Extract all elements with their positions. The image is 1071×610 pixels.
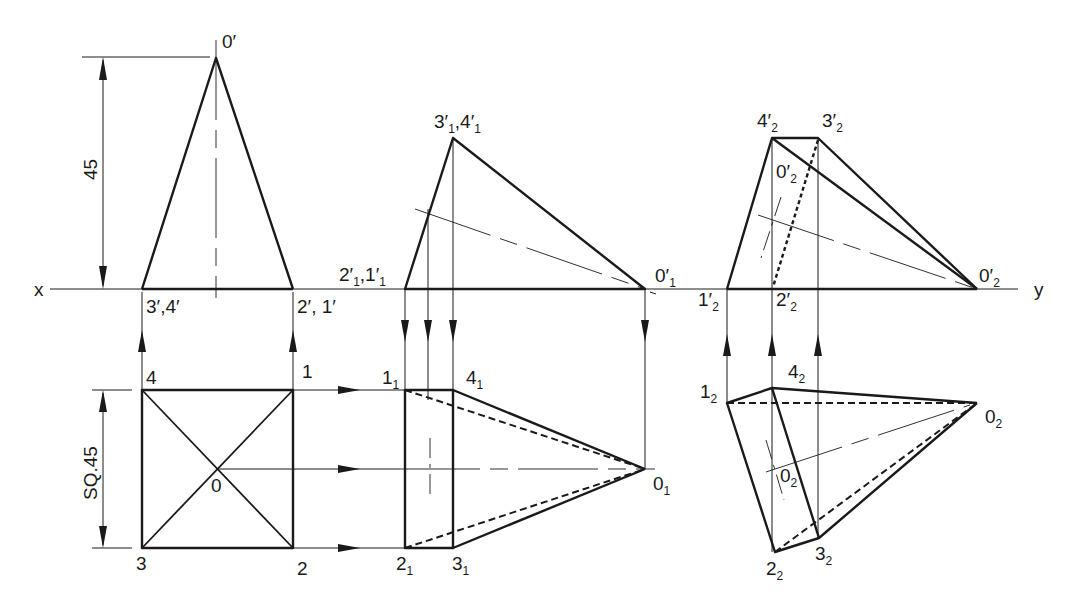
view3-center-label: 0′2	[776, 161, 797, 186]
view3-top-apex-label: 02	[985, 406, 1003, 431]
view1-front-elevation: 0′ 3′,4′ 2′, 1′	[142, 31, 336, 317]
view3-front-elevation: 4′2 3′2 0′2 1′2 2′2 0′2	[698, 110, 1000, 314]
base-left-label: 3′,4′	[146, 296, 180, 317]
height-dimension: 45	[80, 57, 210, 289]
corner-2-label: 2	[297, 558, 308, 579]
view3-p1-label: 1′2	[698, 289, 719, 314]
apex-label: 0′	[222, 31, 237, 52]
view2-p4-label: 41	[466, 367, 484, 392]
view2-front-elevation: 2′1,1′1 3′1,4′1 0′1	[339, 111, 676, 294]
corner-1-label: 1	[302, 361, 313, 382]
view3-projectors	[723, 138, 822, 552]
view3-top-center-label: 02	[780, 465, 798, 490]
transfer-lines-horizontal	[216, 386, 655, 552]
view3-p4-label: 4′2	[757, 110, 778, 135]
y-label: y	[1034, 279, 1044, 300]
view1-top-plan: 4 1 3 2 0	[136, 361, 313, 579]
view3-top-p1-label: 12	[700, 381, 718, 406]
view2-apex-top-label: 01	[653, 473, 671, 498]
view2-p3-label: 31	[452, 553, 470, 578]
view3-top-p2-label: 22	[766, 558, 784, 583]
view3-apex-label: 0′2	[979, 265, 1000, 290]
projection-drawing: x y 0′ 3′,4′ 2′, 1′ 45 4 1 3 2 0	[0, 0, 1071, 610]
x-label: x	[34, 279, 44, 300]
view2-top-label: 3′1,4′1	[434, 111, 481, 136]
corner-4-label: 4	[146, 367, 157, 388]
corner-3-label: 3	[136, 553, 147, 574]
view2-p2-label: 21	[396, 553, 414, 578]
base-right-label: 2′, 1′	[297, 296, 336, 317]
base-dimension: SQ.45	[80, 390, 132, 548]
view3-p3-label: 3′2	[822, 110, 843, 135]
view2-top-plan: 11 41 21 31 01	[382, 367, 671, 578]
view3-top-plan: 12 42 02 02 22 32	[700, 361, 1003, 583]
view3-top-p3-label: 32	[815, 543, 833, 568]
view2-apex-label: 0′1	[655, 265, 676, 290]
base-dimension-text: SQ.45	[80, 446, 101, 500]
view3-p2-label: 2′2	[776, 289, 797, 314]
view3-top-p4-label: 42	[788, 361, 806, 386]
view2-base-left-label: 2′1,1′1	[339, 264, 386, 289]
center-0-label: 0	[211, 475, 222, 496]
view2-p1-label: 11	[382, 367, 400, 392]
height-dimension-text: 45	[80, 159, 101, 180]
